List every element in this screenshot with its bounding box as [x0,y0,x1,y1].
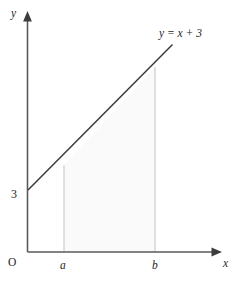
shaded-region-under-line [64,68,155,253]
x-axis-arrowhead [212,248,223,257]
y-intercept-tick-label: 3 [11,187,17,201]
y-axis-arrowhead [23,11,32,22]
graph-figure: y x O 3 a b y = x + 3 [0,0,240,283]
origin-label: O [8,256,16,268]
x-tick-label-b: b [152,259,158,271]
y-axis-label: y [10,7,17,20]
line-equation-label: y = x + 3 [158,27,202,40]
x-tick-label-a: a [60,259,66,271]
coordinate-plane-svg: y x O 3 a b y = x + 3 [0,0,240,283]
x-axis-label: x [222,257,229,269]
